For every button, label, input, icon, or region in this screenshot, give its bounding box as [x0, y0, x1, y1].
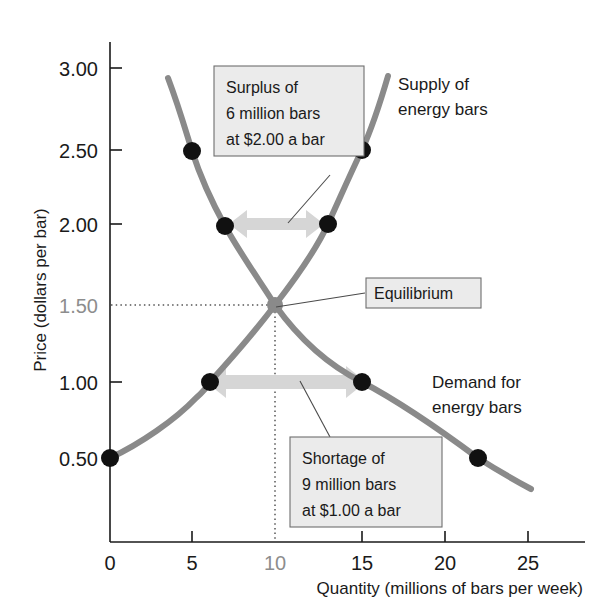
- x-tick-label-15: 15: [351, 552, 373, 574]
- y-tick-label-2.50: 2.50: [59, 140, 98, 162]
- chart-canvas: 3.00 2.50 2.00 1.50 1.00 0.50 0 5 10 15 …: [0, 0, 595, 606]
- surplus-line-1: Surplus of: [226, 79, 299, 96]
- x-axis-title: Quantity (millions of bars per week): [317, 579, 583, 598]
- x-tick-label-20: 20: [434, 552, 456, 574]
- y-tick-label-1.50: 1.50: [59, 295, 98, 317]
- y-tick-label-2.00: 2.00: [59, 214, 98, 236]
- y-axis-title: Price (dollars per bar): [31, 208, 50, 371]
- supply-label-line-1: Supply of: [398, 75, 469, 94]
- x-tick-label-25: 25: [517, 552, 539, 574]
- x-tick-label-0: 0: [104, 552, 115, 574]
- surplus-line-3: at $2.00 a bar: [226, 131, 325, 148]
- surplus-double-arrow: [229, 210, 324, 238]
- demand-point-15-1.00: [353, 373, 371, 391]
- demand-point-7-2.00: [216, 217, 234, 235]
- y-tick-label-0.50: 0.50: [59, 448, 98, 470]
- supply-label-line-2: energy bars: [398, 100, 488, 119]
- y-tick-label-3.00: 3.00: [59, 58, 98, 80]
- supply-point-13-2.00: [319, 215, 337, 233]
- demand-point-22-0.50: [469, 449, 487, 467]
- equilibrium-label: Equilibrium: [374, 285, 453, 302]
- demand-label-line-2: energy bars: [432, 398, 522, 417]
- x-tick-label-10: 10: [264, 552, 286, 574]
- supply-point-6-1.00: [201, 373, 219, 391]
- shortage-line-1: Shortage of: [302, 450, 385, 467]
- demand-point-5-2.50: [183, 142, 201, 160]
- equilibrium-leader-line: [276, 293, 365, 307]
- surplus-callout: Surplus of 6 million bars at $2.00 a bar: [214, 66, 364, 156]
- demand-label-line-1: Demand for: [432, 373, 521, 392]
- y-tick-label-1.00: 1.00: [59, 372, 98, 394]
- shortage-leader-line: [300, 381, 330, 437]
- supply-point-1-0.50: [101, 449, 119, 467]
- shortage-line-3: at $1.00 a bar: [302, 502, 401, 519]
- supply-curve-label: Supply of energy bars: [398, 75, 488, 119]
- shortage-line-2: 9 million bars: [302, 476, 396, 493]
- supply-demand-chart: 3.00 2.50 2.00 1.50 1.00 0.50 0 5 10 15 …: [0, 0, 595, 606]
- x-tick-label-5: 5: [186, 552, 197, 574]
- shortage-callout: Shortage of 9 million bars at $1.00 a ba…: [290, 437, 442, 527]
- equilibrium-callout: Equilibrium: [366, 278, 481, 308]
- equilibrium-point: [267, 297, 283, 313]
- demand-curve-label: Demand for energy bars: [432, 373, 522, 417]
- surplus-line-2: 6 million bars: [226, 105, 320, 122]
